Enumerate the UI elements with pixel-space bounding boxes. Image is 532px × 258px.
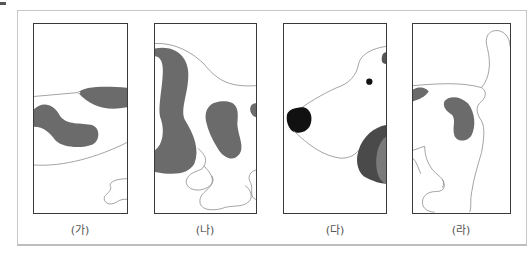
panel-label-ra: (라): [441, 221, 481, 237]
corner-mark: [0, 2, 6, 5]
dog-body-middle-illustration: [34, 24, 127, 213]
panel-ga: [33, 23, 128, 214]
dog-ear-legs-illustration: [155, 24, 256, 213]
panel-na: [154, 23, 257, 214]
panel-label-da: (다): [315, 221, 355, 237]
dog-rear-tail-illustration: [413, 24, 510, 213]
panel-ra: [412, 23, 511, 214]
dog-head-illustration: [284, 24, 386, 213]
panel-da: [283, 23, 387, 214]
panel-label-na: (나): [185, 221, 225, 237]
panel-label-ga: (가): [60, 221, 100, 237]
